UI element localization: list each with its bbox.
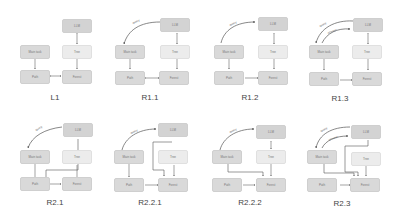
node-forest: Forest xyxy=(158,178,188,192)
panel-r2-3: query answer LLM Tree Main task Path For… xyxy=(300,112,400,224)
node-main-task: Main task xyxy=(309,45,339,59)
node-forest: Forest xyxy=(256,178,286,192)
panel-caption: R2.2.1 xyxy=(100,198,200,207)
node-tree: Tree xyxy=(158,150,188,164)
node-llm: LLM xyxy=(63,123,93,137)
panel-caption: R1.3 xyxy=(290,94,390,103)
node-forest: Forest xyxy=(62,70,92,84)
node-forest: Forest xyxy=(62,177,92,191)
edge-label: query xyxy=(229,20,238,27)
panel-caption: R2.2.2 xyxy=(200,198,300,207)
node-path: Path xyxy=(115,71,145,85)
edge-label: query xyxy=(130,128,139,135)
node-llm: LLM xyxy=(256,125,286,139)
edge-label: query xyxy=(35,124,44,131)
node-tree: Tree xyxy=(351,152,381,166)
node-main-task: Main task xyxy=(114,150,144,164)
panel-r2-1: query LLM Tree Main task Path Forest R2.… xyxy=(0,112,100,224)
node-tree: Tree xyxy=(62,45,92,59)
node-forest: Forest xyxy=(159,71,189,85)
panel-r1-3: query answer LLM Tree Main task Path For… xyxy=(300,0,400,112)
node-path: Path xyxy=(214,71,244,85)
node-tree: Tree xyxy=(256,150,286,164)
panel-r2-2-1: query LLM Tree Main task Path Forest R2.… xyxy=(100,112,200,224)
node-path: Path xyxy=(114,178,144,192)
node-llm: LLM xyxy=(351,125,381,139)
panel-caption: R2.1 xyxy=(5,198,105,207)
node-tree: Tree xyxy=(258,45,288,59)
panel-r1-2: query LLM Tree Main task Path Forest R1.… xyxy=(200,0,300,112)
node-forest: Forest xyxy=(350,178,380,192)
node-llm: LLM xyxy=(158,123,188,137)
node-path: Path xyxy=(20,70,50,84)
panel-caption: R1.1 xyxy=(100,93,200,102)
node-llm: LLM xyxy=(62,19,92,33)
node-main-task: Main task xyxy=(212,150,242,164)
node-path: Path xyxy=(212,178,242,192)
node-llm: LLM xyxy=(353,18,383,32)
node-path: Path xyxy=(309,72,339,86)
edge-label: answer xyxy=(328,135,338,142)
node-main-task: Main task xyxy=(307,150,337,164)
node-main-task: Main task xyxy=(20,150,50,164)
node-path: Path xyxy=(20,177,50,191)
node-llm: LLM xyxy=(258,17,288,31)
panel-caption: L1 xyxy=(5,93,105,102)
edge-label: query xyxy=(319,21,328,28)
node-forest: Forest xyxy=(258,71,288,85)
node-tree: Tree xyxy=(352,45,382,59)
panel-r2-2-2: query LLM Tree Main task Path Forest R2.… xyxy=(200,112,300,224)
edge-label: query xyxy=(320,126,329,133)
node-main-task: Main task xyxy=(115,45,145,59)
node-path: Path xyxy=(307,178,337,192)
panel-caption: R2.3 xyxy=(292,199,392,208)
node-main-task: Main task xyxy=(214,45,244,59)
panel-r1-1: query LLM Tree Main task Path Forest R1.… xyxy=(100,0,200,112)
edge-label: query xyxy=(229,127,238,134)
panel-caption: R1.2 xyxy=(200,93,300,102)
node-llm: LLM xyxy=(160,18,190,32)
node-main-task: Main task xyxy=(20,45,50,59)
node-forest: Forest xyxy=(352,72,382,86)
edge-label: answer xyxy=(327,28,337,35)
node-tree: Tree xyxy=(62,150,92,164)
edge-label: query xyxy=(132,18,141,25)
node-tree: Tree xyxy=(160,45,190,59)
panel-l1: LLM Tree Main task Path Forest L1 xyxy=(0,0,100,112)
